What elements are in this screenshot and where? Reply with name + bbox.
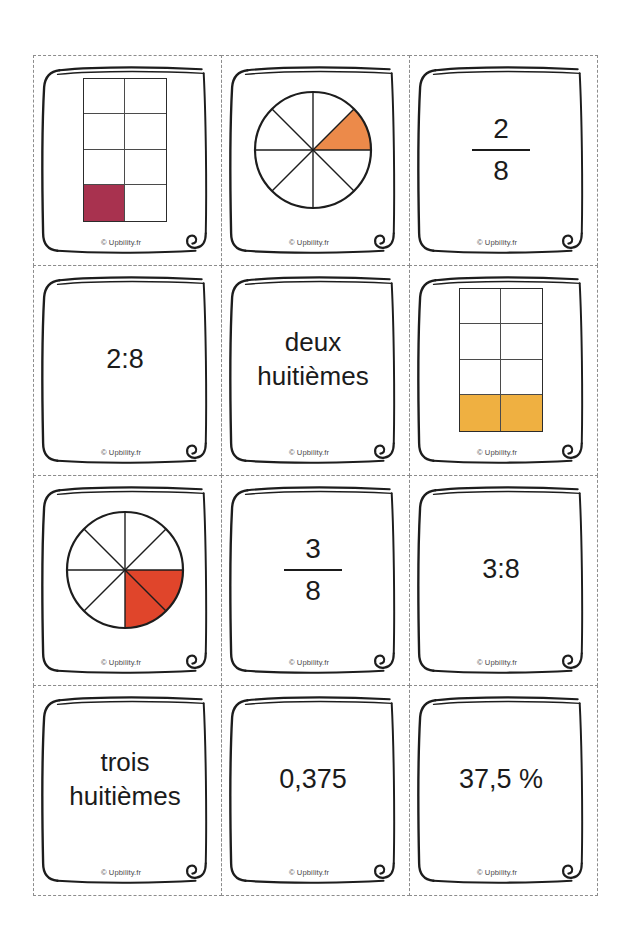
copyright-label: © Upbility.fr <box>415 868 580 877</box>
card-content: 28 <box>425 72 578 228</box>
fraction-bar <box>472 149 530 151</box>
decimal-zero-375[interactable]: 0,375© Upbility.fr <box>227 692 402 888</box>
cut-guide-cell: 2:8© Upbility.fr <box>33 265 222 476</box>
model-cell-filled <box>84 185 125 221</box>
pie-sector-filled <box>313 108 371 149</box>
fraction-three-eighths[interactable]: 38© Upbility.fr <box>227 482 402 678</box>
pie-model-two-eighths[interactable]: © Upbility.fr <box>39 482 214 678</box>
card-content: 3:8 <box>425 492 578 648</box>
card-content: 2:8 <box>49 282 202 438</box>
model-cell-filled <box>501 395 542 431</box>
fraction-display: 38 <box>284 535 342 605</box>
card-grid: © Upbility.fr© Upbility.fr28© Upbility.f… <box>33 55 597 895</box>
fraction-denominator: 8 <box>493 155 509 185</box>
cut-guide-cell: 0,375© Upbility.fr <box>221 685 410 896</box>
copyright-label: © Upbility.fr <box>227 658 392 667</box>
model-cell-empty <box>125 150 166 186</box>
copyright-label: © Upbility.fr <box>415 448 580 457</box>
model-cell-empty <box>501 360 542 396</box>
copyright-label: © Upbility.fr <box>39 238 204 247</box>
rectangle-model-two-eighths[interactable]: © Upbility.fr <box>415 272 590 468</box>
fraction-bar <box>284 569 342 571</box>
worksheet-page: © Upbility.fr© Upbility.fr28© Upbility.f… <box>0 0 630 937</box>
card-content <box>237 72 390 228</box>
cut-guide-cell: trois huitièmes© Upbility.fr <box>33 685 222 896</box>
model-cell-empty <box>460 289 501 325</box>
card-text: 2:8 <box>106 342 144 377</box>
cut-guide-cell: © Upbility.fr <box>33 55 222 266</box>
card-content <box>425 282 578 438</box>
model-cell-empty <box>460 360 501 396</box>
cut-guide-cell: © Upbility.fr <box>221 55 410 266</box>
card-content: trois huitièmes <box>49 702 202 858</box>
cut-guide-cell: deux huitièmes© Upbility.fr <box>221 265 410 476</box>
card-text: deux huitièmes <box>257 326 368 393</box>
words-deux-huitiemes[interactable]: deux huitièmes© Upbility.fr <box>227 272 402 468</box>
model-cell-filled <box>460 395 501 431</box>
copyright-label: © Upbility.fr <box>39 868 204 877</box>
fraction-denominator: 8 <box>305 575 321 605</box>
card-content: deux huitièmes <box>237 282 390 438</box>
fraction-two-eighths[interactable]: 28© Upbility.fr <box>415 62 590 258</box>
copyright-label: © Upbility.fr <box>227 448 392 457</box>
rectangle-fraction-model <box>459 288 543 432</box>
model-cell-empty <box>125 185 166 221</box>
cut-guide-cell: © Upbility.fr <box>409 265 598 476</box>
fraction-numerator: 2 <box>493 115 509 147</box>
card-content: 37,5 % <box>425 702 578 858</box>
pie-fraction-model <box>252 89 374 211</box>
card-content: 0,375 <box>237 702 390 858</box>
card-content <box>49 72 202 228</box>
model-cell-empty <box>84 114 125 150</box>
card-text: 37,5 % <box>459 762 543 797</box>
copyright-label: © Upbility.fr <box>415 658 580 667</box>
cut-guide-cell: 37,5 %© Upbility.fr <box>409 685 598 896</box>
percent-37-5[interactable]: 37,5 %© Upbility.fr <box>415 692 590 888</box>
card-text: 3:8 <box>482 552 520 587</box>
fraction-display: 28 <box>472 115 530 185</box>
copyright-label: © Upbility.fr <box>227 868 392 877</box>
cut-guide-cell: 38© Upbility.fr <box>221 475 410 686</box>
card-text: trois huitièmes <box>69 746 180 813</box>
cut-guide-cell: © Upbility.fr <box>33 475 222 686</box>
card-text: 0,375 <box>279 762 347 797</box>
copyright-label: © Upbility.fr <box>415 238 580 247</box>
model-cell-empty <box>84 150 125 186</box>
model-cell-empty <box>501 324 542 360</box>
fraction-numerator: 3 <box>305 535 321 567</box>
words-trois-huitiemes[interactable]: trois huitièmes© Upbility.fr <box>39 692 214 888</box>
model-cell-empty <box>125 114 166 150</box>
model-cell-empty <box>501 289 542 325</box>
model-cell-empty <box>460 324 501 360</box>
model-cell-empty <box>84 79 125 115</box>
cut-guide-cell: 3:8© Upbility.fr <box>409 475 598 686</box>
card-content: 38 <box>237 492 390 648</box>
pie-fraction-model <box>64 509 186 631</box>
rectangle-model-one-eighth[interactable]: © Upbility.fr <box>39 62 214 258</box>
copyright-label: © Upbility.fr <box>39 448 204 457</box>
rectangle-fraction-model <box>83 78 167 222</box>
cut-guide-cell: 28© Upbility.fr <box>409 55 598 266</box>
pie-model-one-eighth[interactable]: © Upbility.fr <box>227 62 402 258</box>
model-cell-empty <box>125 79 166 115</box>
copyright-label: © Upbility.fr <box>39 658 204 667</box>
card-content <box>49 492 202 648</box>
ratio-two-to-eight[interactable]: 2:8© Upbility.fr <box>39 272 214 468</box>
copyright-label: © Upbility.fr <box>227 238 392 247</box>
ratio-three-to-eight[interactable]: 3:8© Upbility.fr <box>415 482 590 678</box>
